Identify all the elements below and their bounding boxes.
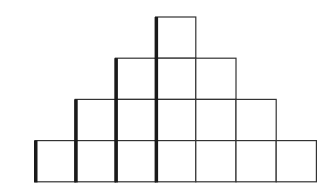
square-cell — [115, 99, 155, 140]
square-cell — [196, 141, 236, 182]
square-cell — [196, 58, 236, 99]
thick-edge — [114, 58, 118, 100]
square-cell — [156, 58, 196, 99]
thick-edge — [155, 17, 159, 59]
thick-edge — [34, 141, 38, 183]
square-cell — [75, 99, 115, 140]
pyramid-diagram — [0, 0, 335, 194]
square-cell — [35, 141, 75, 182]
square-cell — [156, 17, 196, 58]
thick-edge — [155, 58, 159, 100]
thick-edge — [114, 141, 118, 183]
square-cell — [75, 141, 115, 182]
square-cell — [156, 141, 196, 182]
square-cell — [236, 99, 276, 140]
square-cell — [276, 141, 316, 182]
square-cell — [156, 99, 196, 140]
thick-edge — [114, 99, 118, 141]
square-cell — [115, 141, 155, 182]
square-cell — [196, 99, 236, 140]
square-cell — [236, 141, 276, 182]
square-cell — [115, 58, 155, 99]
thick-edge — [155, 99, 159, 141]
thick-edge — [74, 99, 78, 141]
thick-edge — [74, 141, 78, 183]
thick-edge — [155, 141, 159, 183]
